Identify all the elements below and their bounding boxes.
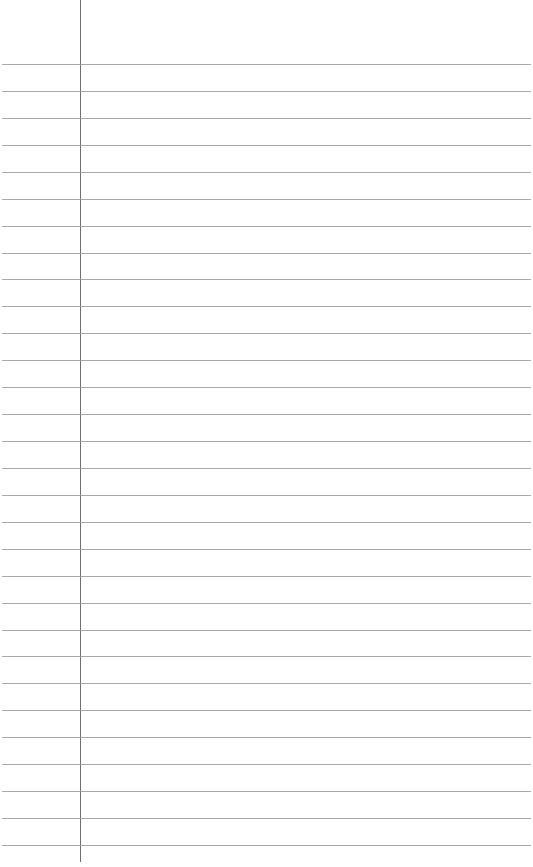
- ruled-line: [2, 845, 531, 846]
- ruled-line: [2, 818, 531, 819]
- ruled-line: [2, 145, 531, 146]
- ruled-line: [2, 64, 531, 65]
- ruled-line: [2, 522, 531, 523]
- ruled-line: [2, 764, 531, 765]
- margin-line: [80, 0, 81, 862]
- ruled-line: [2, 306, 531, 307]
- ruled-line: [2, 791, 531, 792]
- ruled-line: [2, 118, 531, 119]
- ruled-line: [2, 549, 531, 550]
- ruled-line: [2, 360, 531, 361]
- ruled-line: [2, 414, 531, 415]
- ruled-line: [2, 468, 531, 469]
- ruled-line: [2, 387, 531, 388]
- ruled-line: [2, 253, 531, 254]
- ruled-line: [2, 737, 531, 738]
- ruled-line: [2, 683, 531, 684]
- ruled-line: [2, 333, 531, 334]
- ruled-line: [2, 576, 531, 577]
- ruled-line: [2, 710, 531, 711]
- ruled-line: [2, 279, 531, 280]
- ruled-line: [2, 172, 531, 173]
- ruled-line: [2, 441, 531, 442]
- lined-paper-page: [0, 0, 533, 867]
- ruled-line: [2, 226, 531, 227]
- ruled-line: [2, 91, 531, 92]
- ruled-line: [2, 495, 531, 496]
- ruled-line: [2, 656, 531, 657]
- ruled-line: [2, 630, 531, 631]
- ruled-line: [2, 603, 531, 604]
- ruled-line: [2, 199, 531, 200]
